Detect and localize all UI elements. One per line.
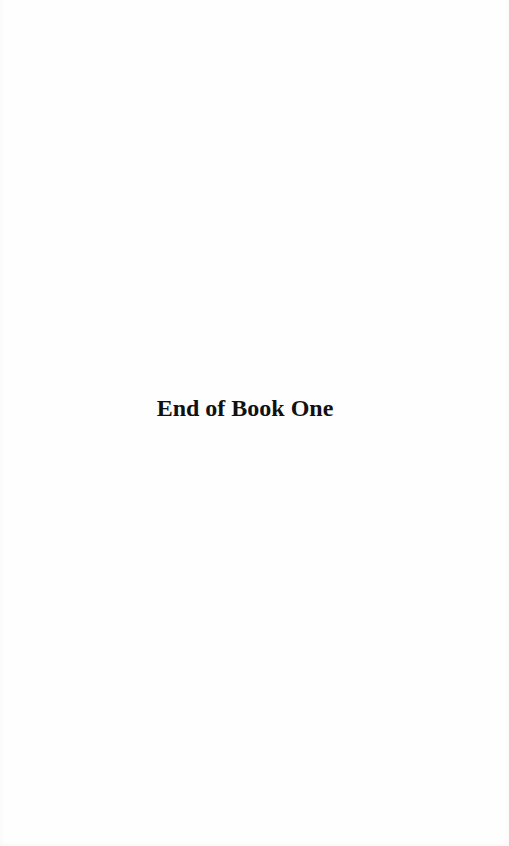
book-page: End of Book One <box>0 0 509 846</box>
section-end-heading: End of Book One <box>0 393 490 423</box>
